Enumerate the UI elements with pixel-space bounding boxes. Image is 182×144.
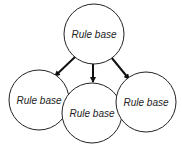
node-label: Rule base xyxy=(69,108,114,119)
rule-base-diagram: Rule base Rule base Rule base Rule base xyxy=(0,0,182,144)
node-label: Rule base xyxy=(16,95,61,106)
arrow-root-to-left xyxy=(55,57,75,76)
diagram-canvas: Rule base Rule base Rule base Rule base xyxy=(0,0,182,144)
node-label: Rule base xyxy=(71,29,116,40)
node-label: Rule base xyxy=(123,97,168,108)
node-right: Rule base xyxy=(116,72,176,132)
node-middle: Rule base xyxy=(62,83,122,143)
arrow-root-to-right xyxy=(111,57,129,79)
node-root: Rule base xyxy=(64,4,124,64)
node-left: Rule base xyxy=(9,70,69,130)
